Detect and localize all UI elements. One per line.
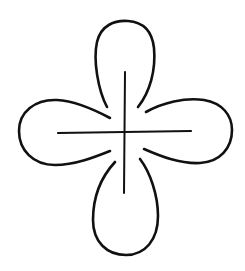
petal-bottom — [93, 159, 158, 255]
quatrefoil-drawing — [0, 0, 245, 271]
cross-horizontal-line — [58, 131, 191, 133]
quatrefoil-figure — [0, 0, 245, 271]
